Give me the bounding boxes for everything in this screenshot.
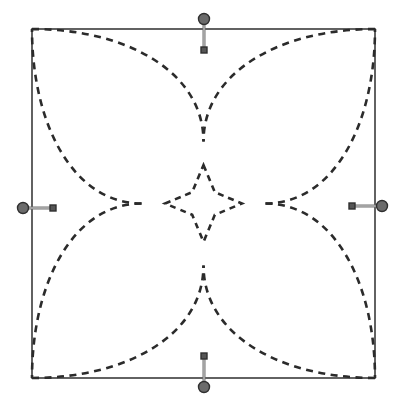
constraint-handle-bottom-square-knob[interactable] [201, 353, 207, 359]
constraint-handle-bottom[interactable] [199, 353, 210, 393]
constraint-handle-right-circle-anchor[interactable] [377, 201, 388, 212]
constraint-handle-top-circle-anchor[interactable] [199, 14, 210, 25]
constraint-handle-left-square-knob[interactable] [50, 205, 56, 211]
constraint-handle-bottom-circle-anchor[interactable] [199, 382, 210, 393]
petal-curve-4[interactable] [32, 204, 204, 379]
constraint-handle-right[interactable] [349, 201, 388, 212]
constraint-handles[interactable] [18, 14, 388, 393]
central-four-point-star[interactable] [165, 165, 242, 242]
sketch-drawing[interactable] [0, 0, 396, 401]
petal-curve-2[interactable] [204, 29, 376, 204]
petal-curve-3[interactable] [204, 204, 376, 379]
constraint-handle-top-square-knob[interactable] [201, 47, 207, 53]
bounding-square[interactable] [32, 29, 375, 378]
sketch-canvas[interactable] [0, 0, 396, 401]
star-outline[interactable] [165, 165, 242, 242]
constraint-handle-left-circle-anchor[interactable] [18, 203, 29, 214]
four-petal-rose[interactable] [32, 29, 375, 378]
constraint-handle-right-square-knob[interactable] [349, 203, 355, 209]
constraint-handle-top[interactable] [199, 14, 210, 54]
petal-curve-1[interactable] [32, 29, 204, 204]
constraint-handle-left[interactable] [18, 203, 57, 214]
